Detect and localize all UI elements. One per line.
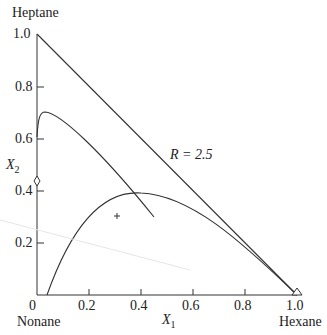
y-tick-0.2: 0.2	[15, 236, 33, 250]
x-axis-label: X1	[162, 313, 176, 330]
y-ticks	[37, 87, 44, 243]
y-tick-0.8: 0.8	[15, 80, 33, 94]
y-axis-label: X2	[6, 158, 20, 175]
ternary-plot	[0, 0, 327, 335]
x-tick-0.6: 0.6	[182, 299, 200, 313]
y-tick-1.0: 1.0	[13, 27, 31, 41]
plus-marker	[114, 213, 120, 219]
boundary-line	[37, 34, 297, 295]
x-ticks	[89, 289, 245, 295]
hexane-label: Hexane	[279, 315, 322, 329]
nonane-label: Nonane	[17, 315, 61, 329]
heptane-label: Heptane	[12, 6, 59, 20]
y-tick-0.6: 0.6	[15, 132, 33, 146]
x-tick-0.2: 0.2	[78, 299, 96, 313]
diamond-marker	[34, 176, 40, 186]
x-tick-0.8: 0.8	[234, 299, 252, 313]
r-annotation: R = 2.5	[170, 148, 213, 162]
upper-curve	[37, 112, 154, 217]
x-tick-0: 0	[29, 299, 36, 313]
y-tick-0.4: 0.4	[15, 184, 33, 198]
x-tick-1.0: 1.0	[286, 299, 304, 313]
x-tick-0.4: 0.4	[130, 299, 148, 313]
lower-curve	[47, 193, 297, 295]
